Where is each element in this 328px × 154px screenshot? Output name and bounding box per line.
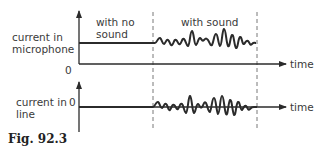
with-sound-region-label: with sound [181, 16, 238, 28]
no-sound-region-label: with no sound [96, 16, 135, 40]
top-y-label: current in microphone [12, 31, 74, 55]
sound-current-diagram [0, 0, 328, 154]
bottom-y-label: current in line [16, 96, 67, 120]
bottom-line-current-trace [79, 96, 257, 115]
bottom-x-label: time [290, 101, 314, 113]
figure-caption: Fig. 92.3 [8, 132, 67, 146]
bottom-origin-label: 0 [69, 96, 76, 108]
top-origin-label: 0 [65, 64, 72, 76]
top-x-label: time [290, 58, 314, 70]
